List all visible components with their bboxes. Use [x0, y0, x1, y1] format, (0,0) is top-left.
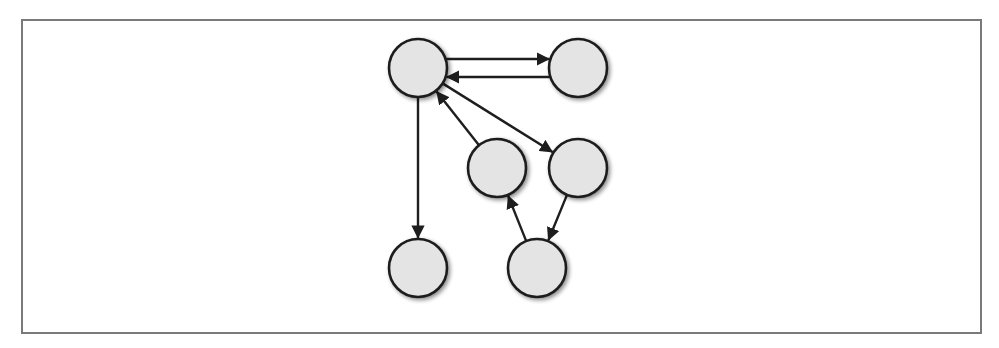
edge-n6-to-n3: [508, 196, 526, 241]
edge-n3-to-n1: [437, 92, 479, 146]
edge-n4-to-n6: [548, 195, 567, 240]
graph-node-n2: [549, 39, 607, 97]
graph-node-n5: [389, 239, 447, 297]
directed-graph-diagram: [0, 0, 999, 348]
graph-node-n6: [508, 239, 566, 297]
graph-node-n1: [389, 39, 447, 97]
graph-node-n4: [549, 139, 607, 197]
graph-node-n3: [468, 139, 526, 197]
